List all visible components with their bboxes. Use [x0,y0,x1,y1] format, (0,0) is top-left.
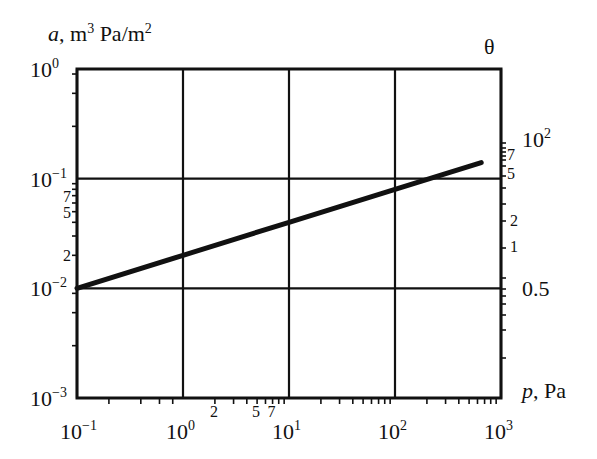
x-tick-label: 103 [484,418,513,444]
y-tick-label: 10−1 [30,166,67,192]
y-tick-label: 100 [30,56,59,82]
x-axis-title: p, Pa [520,378,566,403]
y2-tick-label: 5 [507,165,515,182]
x-minor-label: 7 [268,403,276,420]
y2-tick-label: 7 [507,146,515,163]
y2-tick-label: 2 [510,212,518,229]
chart: a, m3 Pa/m2 θ p, Pa 10−11001011021032571… [0,0,597,459]
y-minor-label: 5 [63,204,71,221]
y2-axis-title: θ [484,34,495,59]
x-tick-label: 100 [166,418,195,444]
grid [77,69,501,398]
y-axis-title: a, m3 Pa/m2 [48,21,152,46]
x-minor-label: 2 [210,403,218,420]
x-minor-label: 5 [252,403,260,420]
y-minor-label: 7 [63,188,71,205]
tick-labels: 10−110010110210325710010−110−210−3752102… [30,56,551,444]
y-tick-label: 10−2 [30,275,67,301]
x-tick-label: 10−1 [60,418,97,444]
y2-tick-label: 0.5 [522,276,550,301]
x-tick-label: 101 [272,418,301,444]
data-line [77,163,481,289]
y-minor-label: 2 [63,247,71,264]
y2-tick-label: 1 [510,238,518,255]
y2-tick-label: 102 [522,126,551,152]
y-tick-label: 10−3 [30,385,67,411]
x-tick-label: 102 [378,418,407,444]
